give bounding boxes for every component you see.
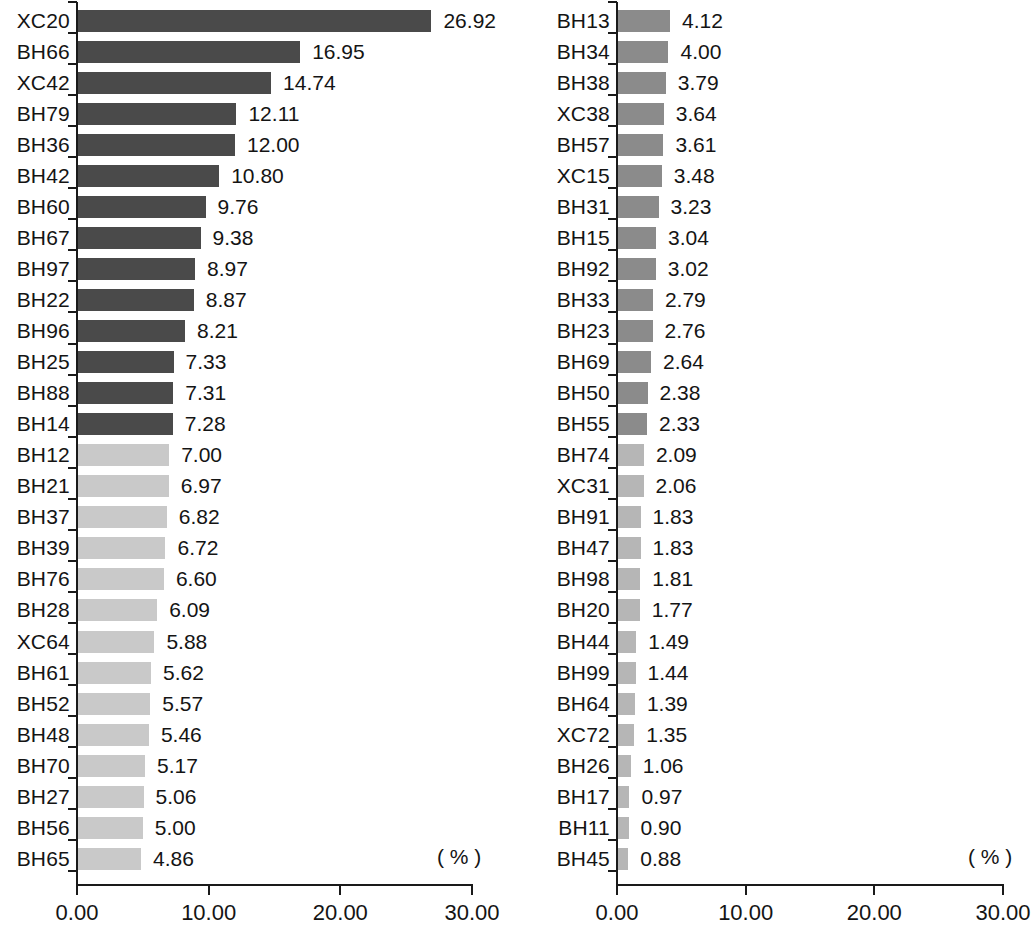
bar[interactable] [617,506,641,528]
bar-value-label: 10.80 [231,164,284,188]
bar-row[interactable]: BH692.64 [513,347,1026,378]
bar[interactable] [617,165,662,187]
bar[interactable] [617,724,634,746]
bar[interactable] [77,258,195,280]
bar-row[interactable]: BH232.76 [513,316,1026,347]
bar[interactable] [77,413,173,435]
bar[interactable] [617,41,668,63]
bar-row[interactable]: BH502.38 [513,378,1026,409]
bar-row[interactable]: XC721.35 [513,719,1026,750]
bar-row[interactable]: BH742.09 [513,440,1026,471]
bar-row[interactable]: BH383.79 [513,67,1026,98]
category-label: BH27 [17,785,70,809]
bar[interactable] [77,662,151,684]
bar-row[interactable]: XC312.06 [513,471,1026,502]
bar[interactable] [617,662,636,684]
category-label: BH15 [557,226,610,250]
bar[interactable] [617,693,635,715]
bar-row[interactable]: BH134.12 [513,5,1026,36]
bar-row[interactable]: BH313.23 [513,191,1026,222]
bar-row[interactable]: BH573.61 [513,129,1026,160]
bar[interactable] [77,134,235,156]
bar-value-label: 16.95 [312,40,365,64]
category-label: BH23 [557,319,610,343]
bar[interactable] [77,103,236,125]
bar[interactable] [77,72,271,94]
bar-row[interactable]: BH110.90 [513,812,1026,843]
bar[interactable] [617,631,636,653]
bar[interactable] [77,724,149,746]
category-label: BH38 [557,71,610,95]
bar-value-label: 7.28 [185,412,226,436]
bar[interactable] [77,289,194,311]
category-label: BH34 [557,40,610,64]
bar[interactable] [77,817,143,839]
bar[interactable] [617,599,640,621]
bar-row[interactable]: BH981.81 [513,564,1026,595]
bar-row[interactable]: BH441.49 [513,626,1026,657]
bar[interactable] [77,599,157,621]
bar[interactable] [77,631,154,653]
category-label: BH17 [557,785,610,809]
bar-value-label: 2.79 [665,288,706,312]
bar[interactable] [617,817,629,839]
bar[interactable] [77,41,300,63]
bar[interactable] [77,755,145,777]
bar[interactable] [617,227,656,249]
bar[interactable] [77,10,431,32]
category-label: BH50 [557,381,610,405]
bar-row[interactable]: BH170.97 [513,781,1026,812]
bar[interactable] [77,568,164,590]
bar[interactable] [617,10,670,32]
bar[interactable] [77,382,173,404]
bar-row[interactable]: XC153.48 [513,160,1026,191]
bar[interactable] [617,568,640,590]
bar-row[interactable]: BH471.83 [513,533,1026,564]
bar[interactable] [617,537,641,559]
bar-value-label: 3.23 [671,195,712,219]
bar-row[interactable]: BH911.83 [513,502,1026,533]
bar[interactable] [617,351,651,373]
bar[interactable] [617,848,628,870]
bar[interactable] [617,755,631,777]
bar[interactable] [617,786,629,808]
bar[interactable] [77,693,150,715]
bar[interactable] [617,444,644,466]
bar-row[interactable]: XC383.64 [513,98,1026,129]
bar[interactable] [77,196,206,218]
bar[interactable] [617,103,664,125]
bar[interactable] [617,289,653,311]
bar-row[interactable]: BH450.88 [513,843,1026,874]
bar[interactable] [77,786,144,808]
bar-row[interactable]: BH201.77 [513,595,1026,626]
bar[interactable] [617,196,659,218]
bar[interactable] [77,227,201,249]
bar-row[interactable]: BH261.06 [513,750,1026,781]
bar[interactable] [77,444,169,466]
bar[interactable] [77,475,169,497]
bar-row[interactable]: BH332.79 [513,284,1026,315]
bar-row[interactable]: BH344.00 [513,36,1026,67]
bar[interactable] [617,475,644,497]
bar-row[interactable]: BH153.04 [513,222,1026,253]
bar-value-label: 8.97 [207,257,248,281]
bar[interactable] [77,165,219,187]
bar[interactable] [617,258,656,280]
bar[interactable] [617,413,647,435]
y-axis-line [616,2,618,884]
bar-row[interactable]: BH552.33 [513,409,1026,440]
category-label: BH55 [557,412,610,436]
bar-row[interactable]: BH641.39 [513,688,1026,719]
bar[interactable] [617,382,648,404]
bar[interactable] [77,848,141,870]
bar[interactable] [77,506,167,528]
category-label: BH21 [17,474,70,498]
bar[interactable] [617,134,663,156]
bar-row[interactable]: BH923.02 [513,253,1026,284]
bar[interactable] [77,351,174,373]
bar[interactable] [617,72,666,94]
bar[interactable] [77,320,185,342]
bar[interactable] [77,537,165,559]
bar[interactable] [617,320,653,342]
bar-row[interactable]: BH991.44 [513,657,1026,688]
